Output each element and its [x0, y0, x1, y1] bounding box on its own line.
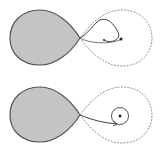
mass-stream	[80, 19, 119, 41]
roche-lobe-diagram-top	[0, 0, 161, 77]
companion-star	[119, 115, 122, 118]
roche-lobe-diagram-bottom	[0, 77, 161, 154]
diagram-top-panel	[0, 0, 161, 77]
stream-end	[103, 39, 105, 41]
donor-lobe	[10, 10, 80, 65]
donor-lobe	[10, 87, 80, 142]
diagram-bottom-panel	[0, 77, 161, 154]
companion-lobe	[80, 10, 152, 66]
companion-star	[120, 38, 123, 41]
companion-lobe	[80, 87, 152, 143]
